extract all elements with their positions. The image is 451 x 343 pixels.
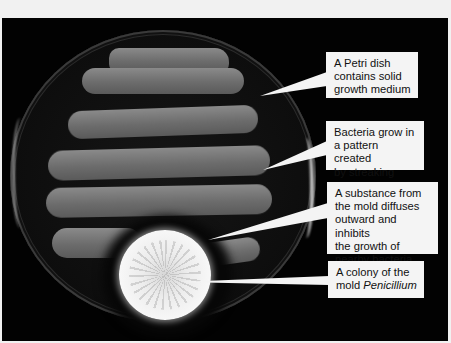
callout-line: A substance from xyxy=(335,187,432,200)
pointer-petri-dish xyxy=(260,72,327,96)
callout-line: the mold diffuses xyxy=(335,200,432,213)
callout-line: contains solid xyxy=(334,70,412,83)
genus-name: Penicillium xyxy=(363,279,416,291)
callout-line: A colony of the xyxy=(336,266,418,279)
pointer-bacteria xyxy=(263,141,327,170)
callout-line: outward and inhibits xyxy=(335,213,432,239)
callout-bacteria: Bacteria grow in a pattern created by st… xyxy=(326,121,424,170)
callout-line: the growth of xyxy=(335,240,432,253)
pointer-inhibition xyxy=(208,203,328,240)
callout-text: mold xyxy=(336,279,363,291)
callout-line: A Petri dish xyxy=(334,57,412,70)
pointer-mold xyxy=(178,276,329,285)
callout-petri-dish: A Petri dish contains solid growth mediu… xyxy=(326,52,418,98)
callout-line: growth medium xyxy=(334,83,412,96)
callout-line: Bacteria grow in xyxy=(334,126,418,139)
callout-line: a pattern created xyxy=(334,139,418,165)
callout-line: by streaking xyxy=(334,166,418,179)
callout-line: mold Penicillium xyxy=(336,279,418,292)
callout-mold: A colony of the mold Penicillium xyxy=(328,261,424,298)
callout-inhibition: A substance from the mold diffuses outwa… xyxy=(327,182,438,254)
